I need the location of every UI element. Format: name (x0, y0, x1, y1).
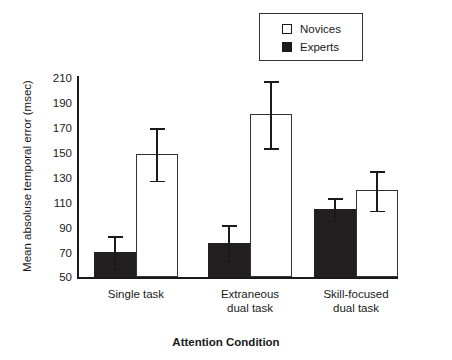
x-category-extraneous-dual-task-line2: dual task (190, 301, 310, 315)
x-axis-line (77, 277, 398, 279)
y-tick-130: 130 (46, 173, 72, 185)
y-tick-170: 170 (46, 123, 72, 135)
errorbar-novices-extraneous-dual-task (270, 81, 272, 149)
y-tick-210: 210 (46, 73, 72, 85)
errorbar-experts-extraneous-dual-task (228, 225, 230, 261)
errorbar-novices-single-task (156, 128, 158, 181)
chart-figure: Novices Experts 210 190 170 150 130 110 … (0, 0, 452, 360)
x-category-skill-focused-dual-task: Skill-focused dual task (296, 287, 416, 315)
x-category-skill-focused-dual-task-line2: dual task (296, 301, 416, 315)
y-axis-ticks: 210 190 170 150 130 110 90 70 50 (44, 0, 72, 360)
errorbar-novices-skill-focused-dual-task (376, 171, 378, 211)
y-axis-line (77, 76, 79, 279)
y-tick-70: 70 (46, 248, 72, 260)
legend-label-novices: Novices (300, 23, 341, 35)
errorbar-cap-bottom-novices-extraneous-dual-task (264, 148, 279, 150)
x-category-extraneous-dual-task-line1: Extraneous (221, 288, 279, 300)
errorbar-cap-bottom-experts-skill-focused-dual-task (328, 221, 343, 223)
y-tick-90: 90 (46, 223, 72, 235)
y-tick-190: 190 (46, 98, 72, 110)
errorbar-cap-bottom-novices-single-task (150, 181, 165, 183)
errorbar-experts-single-task (114, 236, 116, 269)
x-axis-title: Attention Condition (0, 336, 452, 348)
errorbar-experts-skill-focused-dual-task (334, 198, 336, 221)
y-tick-110: 110 (46, 198, 72, 210)
y-tick-150: 150 (46, 148, 72, 160)
errorbar-cap-top-novices-skill-focused-dual-task (370, 171, 385, 173)
x-category-extraneous-dual-task: Extraneous dual task (190, 287, 310, 315)
chart-legend: Novices Experts (259, 13, 363, 61)
errorbar-cap-top-experts-single-task (108, 236, 123, 238)
legend-item-experts: Experts (282, 39, 362, 55)
errorbar-cap-top-experts-extraneous-dual-task (222, 225, 237, 227)
y-axis-title: Mean absoluse temporal error (msec) (21, 61, 33, 291)
errorbar-cap-bottom-novices-skill-focused-dual-task (370, 211, 385, 213)
errorbar-cap-bottom-experts-extraneous-dual-task (222, 261, 237, 263)
errorbar-cap-top-experts-skill-focused-dual-task (328, 198, 343, 200)
legend-swatch-novices-icon (282, 24, 292, 34)
errorbar-cap-top-novices-extraneous-dual-task (264, 81, 279, 83)
errorbar-cap-bottom-experts-single-task (108, 269, 123, 271)
legend-swatch-experts-icon (282, 42, 292, 52)
legend-label-experts: Experts (300, 41, 339, 53)
y-tick-50: 50 (46, 272, 72, 284)
x-category-single-task-line1: Single task (108, 288, 164, 300)
legend-item-novices: Novices (282, 21, 362, 37)
x-category-single-task: Single task (76, 287, 196, 301)
x-category-skill-focused-dual-task-line1: Skill-focused (323, 288, 388, 300)
errorbar-cap-top-novices-single-task (150, 128, 165, 130)
